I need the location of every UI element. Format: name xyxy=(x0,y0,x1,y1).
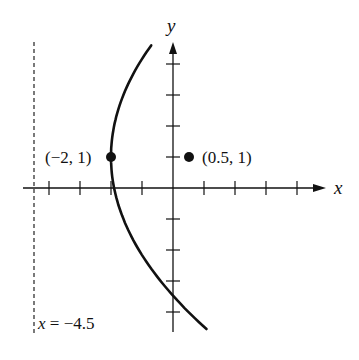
focus-label: (0.5, 1) xyxy=(202,148,252,167)
vertex-point xyxy=(106,152,116,162)
x-axis-arrow-icon xyxy=(313,184,326,192)
parabola-figure: (−2, 1) (0.5, 1) x y x = −4.5 xyxy=(0,0,359,360)
directrix-label: x = −4.5 xyxy=(37,314,94,333)
directrix-label-value: = −4.5 xyxy=(46,314,95,333)
x-axis-label: x xyxy=(333,177,343,198)
y-axis-label: y xyxy=(165,15,176,36)
vertex-label: (−2, 1) xyxy=(45,148,91,167)
focus-point xyxy=(184,152,194,162)
y-axis-arrow-icon xyxy=(169,42,177,54)
parabola-curve xyxy=(111,45,207,329)
plot-canvas: (−2, 1) (0.5, 1) x y x = −4.5 xyxy=(0,0,359,360)
